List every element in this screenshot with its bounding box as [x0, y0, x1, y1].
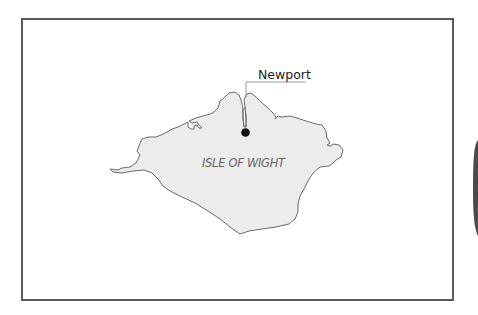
- region-label: ISLE OF WIGHT: [202, 156, 286, 170]
- cropped-edge-object: [473, 140, 478, 236]
- newport-label: Newport: [258, 67, 311, 82]
- newport-marker-icon[interactable]: [241, 128, 250, 137]
- map-canvas: Newport ISLE OF WIGHT: [0, 0, 478, 315]
